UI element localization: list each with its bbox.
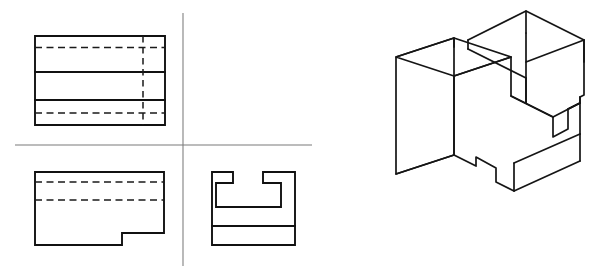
technical-drawing-canvas [0,0,601,278]
drawing-sheet [0,0,601,278]
sheet-background [0,0,601,278]
